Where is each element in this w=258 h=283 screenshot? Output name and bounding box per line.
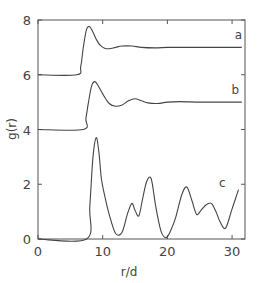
x-tick-label: 0 (34, 244, 42, 259)
x-tick-label: 20 (159, 244, 176, 259)
y-tick-label: 6 (23, 68, 31, 83)
y-tick-label: 0 (23, 232, 31, 247)
x-tick-label: 10 (94, 244, 111, 259)
y-tick-label: 8 (23, 13, 31, 28)
curve-label-a: a (235, 28, 242, 42)
x-tick-label: 30 (224, 244, 241, 259)
curve-label-c: c (219, 176, 226, 190)
y-tick-label: 4 (23, 123, 31, 138)
curve-b (38, 82, 242, 131)
x-axis-label: r/d (121, 265, 138, 279)
y-tick-label: 2 (23, 177, 31, 192)
axis-ticks: 010203002468 (23, 13, 245, 259)
curve-c (38, 138, 239, 242)
plot-curves (38, 27, 242, 242)
curve-labels: abc (219, 28, 242, 190)
curve-label-b: b (231, 83, 239, 97)
curve-a (38, 27, 242, 76)
rdf-chart: 010203002468 abc r/d g(r) (0, 0, 258, 283)
y-axis-label: g(r) (5, 118, 19, 140)
